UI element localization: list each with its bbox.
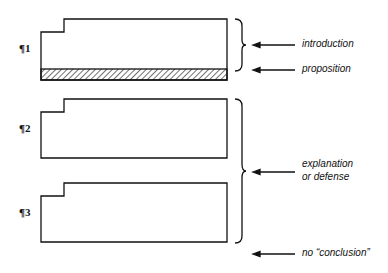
label-introduction: introduction [302, 38, 354, 50]
paragraph-3-label: ¶3 [19, 206, 30, 218]
proposition-hatch [41, 69, 227, 80]
arrow-conclusion-icon [253, 252, 295, 257]
brace-introduction [235, 19, 246, 71]
arrow-proposition-icon [253, 68, 295, 73]
paragraph-3-box [41, 183, 227, 242]
paragraph-2-label: ¶2 [19, 122, 30, 134]
arrow-explanation-icon [253, 170, 295, 175]
arrow-introduction-icon [253, 43, 295, 48]
paragraph-1-label: ¶1 [19, 42, 30, 54]
label-or-defense: or defense [302, 171, 349, 183]
label-explanation: explanation [302, 158, 353, 170]
essay-structure-diagram: ¶1 ¶2 ¶3 introduction proposition explan… [0, 0, 388, 273]
label-proposition: proposition [302, 63, 351, 75]
paragraph-2-box [41, 99, 227, 158]
brace-explanation [235, 99, 246, 243]
label-no-conclusion: no “conclusion” [302, 247, 370, 259]
paragraph-1-box [41, 19, 227, 80]
